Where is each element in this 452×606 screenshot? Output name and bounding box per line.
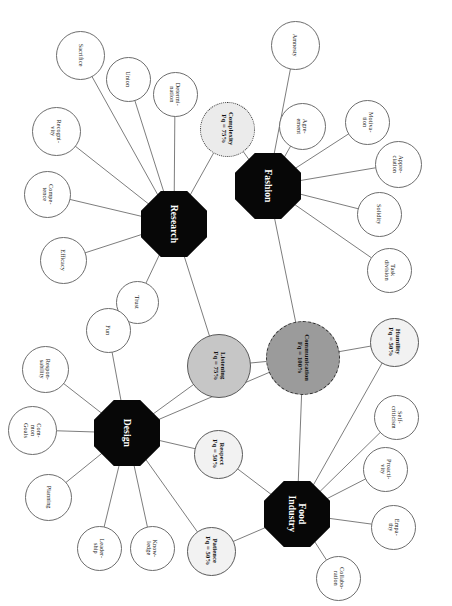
leaf-node-label-competence: Compe- tence	[41, 184, 54, 205]
leaf-node-label-fun: Fun	[105, 325, 111, 335]
hub-node-label-fashion: Fashion	[263, 169, 273, 202]
attribute-frequency-communication: Fq = 100%	[296, 335, 303, 382]
leaf-node-label-agreement: Agre- ement	[296, 118, 309, 134]
hub-node-label-design: Design	[122, 419, 132, 447]
leaf-node-label-self_criticism: Self- criticism	[390, 406, 403, 429]
leaf-node-label-planning: Planning	[45, 486, 51, 509]
edge-listening-to-communication	[250, 361, 267, 363]
leaf-node-fun[interactable]: Fun	[86, 308, 131, 353]
leaf-node-label-responsability: Respon- sability	[39, 358, 52, 379]
edge-communication-to-humility	[338, 346, 370, 352]
hub-node-label-food_industry: Food Industry	[287, 496, 307, 533]
leaf-node-agreement[interactable]: Agre- ement	[279, 103, 326, 150]
edge-food_industry-to-communication	[298, 394, 301, 485]
attribute-label-complexity: Complexity	[227, 112, 234, 146]
edge-research-to-union	[135, 99, 166, 196]
attribute-node-humility[interactable]: HumilityFq = 50%	[370, 318, 419, 367]
leaf-node-knowledge[interactable]: Know- ledge	[130, 526, 175, 571]
edge-design-to-common_goals	[55, 431, 97, 432]
hub-node-label-research: Research	[169, 205, 179, 243]
leaf-node-leadership[interactable]: Leader- ship	[77, 526, 122, 571]
leaf-node-self_criticism[interactable]: Self- criticism	[374, 395, 419, 440]
edge-research-to-efficacy	[84, 233, 146, 253]
leaf-node-task_division[interactable]: Task division	[367, 248, 412, 293]
leaf-node-label-leadership: Leader- ship	[93, 538, 106, 558]
attribute-node-text-humility: HumilityFq = 50%	[387, 328, 400, 357]
edge-research-to-recognition	[74, 146, 150, 206]
attribute-node-text-respect: RespectFq = 50%	[211, 440, 224, 469]
attribute-node-listening[interactable]: ListeningFq = 75%	[187, 334, 251, 398]
edge-food_industry-to-patience	[233, 526, 270, 542]
edge-fashion-to-communication	[274, 215, 296, 323]
edge-research-to-complexity	[188, 152, 214, 198]
leaf-node-union[interactable]: Union	[106, 57, 151, 102]
leaf-node-responsability[interactable]: Respon- sability	[22, 346, 69, 393]
attribute-node-text-patience: PatienceFq = 50%	[204, 537, 217, 566]
leaf-node-label-solidity: Solidity	[376, 204, 382, 224]
leaf-node-label-motivation: Motiva- tion	[361, 112, 374, 133]
leaf-node-label-recognition: Recogni- vity	[50, 119, 63, 142]
attribute-node-patience[interactable]: PatienceFq = 50%	[187, 527, 236, 576]
edge-design-to-responsability	[63, 383, 104, 415]
leaf-node-label-task_division: Task division	[383, 260, 396, 281]
attribute-node-communication[interactable]: CommunicationFq = 100%	[266, 321, 340, 395]
edge-research-to-listening	[183, 252, 210, 336]
attribute-node-complexity[interactable]: ComplexityFq = 75%	[200, 102, 255, 157]
edge-design-to-patience	[144, 457, 197, 532]
leaf-node-proactivity[interactable]: Proacti- vity	[363, 447, 408, 492]
attribute-frequency-listening: Fq = 75%	[212, 352, 219, 381]
leaf-node-label-common_goals: Com- mon Goals	[23, 423, 42, 438]
attribute-frequency-complexity: Fq = 75%	[220, 112, 227, 146]
leaf-node-label-efficacy: Efficacy	[60, 249, 66, 271]
leaf-node-determination[interactable]: Determi- nation	[153, 72, 198, 117]
attribute-node-text-communication: CommunicationFq = 100%	[296, 335, 309, 382]
leaf-node-efficacy[interactable]: Efficacy	[40, 237, 87, 284]
attribute-node-respect[interactable]: RespectFq = 50%	[194, 430, 243, 479]
edge-fashion-to-solidity	[296, 193, 358, 209]
attribute-node-text-complexity: ComplexityFq = 75%	[220, 112, 233, 146]
edge-design-to-knowledge	[133, 462, 147, 527]
edge-design-to-planning	[65, 451, 104, 482]
edge-design-to-leadership	[104, 462, 120, 528]
edge-food_industry-to-empathy	[326, 518, 372, 524]
leaf-node-competence[interactable]: Compe- tence	[24, 171, 71, 218]
leaf-node-planning[interactable]: Planning	[25, 474, 72, 521]
leaf-node-collaboration[interactable]: Collabo- ration	[316, 556, 361, 601]
leaf-node-label-appreciation: Appre- ciation	[392, 155, 405, 173]
leaf-node-motivation[interactable]: Motiva- tion	[345, 100, 390, 145]
leaf-node-label-trust: Trust	[134, 295, 140, 308]
attribute-frequency-patience: Fq = 50%	[204, 537, 211, 566]
leaf-node-label-proactivity: Proacti- vity	[379, 459, 392, 479]
attribute-frequency-respect: Fq = 50%	[211, 440, 218, 469]
edge-design-to-listening	[151, 384, 194, 415]
leaf-node-solidity[interactable]: Solidity	[357, 192, 402, 237]
edge-design-to-fun	[112, 351, 122, 404]
leaf-node-appreciation[interactable]: Appre- ciation	[375, 141, 422, 188]
leaf-node-label-empathy: Empa- thy	[387, 519, 400, 536]
leaf-node-empathy[interactable]: Empa- thy	[371, 505, 416, 550]
leaf-node-label-amnesty: Amnesty	[292, 33, 298, 56]
attribute-node-text-listening: ListeningFq = 75%	[212, 352, 225, 381]
edge-food_industry-to-respect	[237, 468, 274, 496]
leaf-node-sacrifice[interactable]: Sacrifice	[56, 31, 105, 80]
leaf-node-label-determination: Determi- nation	[169, 82, 182, 105]
edge-design-to-respect	[156, 440, 195, 449]
edge-research-to-competence	[69, 199, 146, 217]
leaf-node-recognition[interactable]: Recogni- vity	[32, 107, 81, 156]
leaf-node-label-collaboration: Collabo- ration	[332, 567, 345, 589]
leaf-node-label-union: Union	[125, 71, 131, 87]
leaf-node-label-knowledge: Know- ledge	[146, 539, 159, 557]
network-diagram-canvas: SacrificeUnionDetermi- nationRecogni- vi…	[0, 0, 452, 606]
leaf-node-common_goals[interactable]: Com- mon Goals	[8, 406, 57, 455]
attribute-frequency-humility: Fq = 50%	[387, 328, 394, 357]
leaf-node-amnesty[interactable]: Amnesty	[271, 21, 320, 70]
edge-research-to-determination	[174, 115, 175, 194]
leaf-node-label-sacrifice: Sacrifice	[77, 44, 83, 67]
edge-research-to-trust	[146, 251, 162, 284]
edge-fashion-to-appreciation	[297, 168, 376, 181]
